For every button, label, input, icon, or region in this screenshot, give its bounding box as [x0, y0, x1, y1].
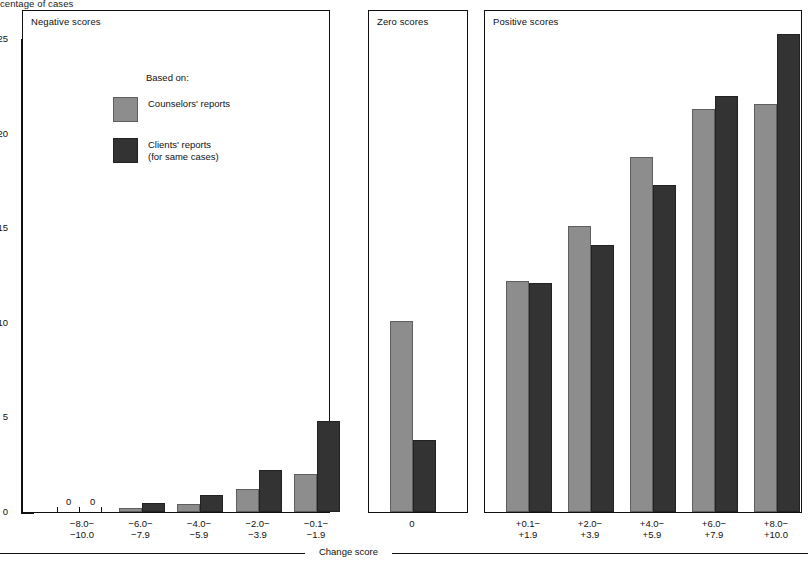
x-tick-label-line: −0.1− [282, 518, 350, 529]
bar-client-positive-3 [715, 96, 738, 512]
bar-group [59, 9, 107, 512]
bar-counselor-positive-2 [630, 157, 653, 513]
bar-group [389, 9, 437, 512]
x-tick-label-positive-0: +0.1−+1.9 [494, 518, 562, 540]
bar-client-positive-1 [591, 245, 614, 512]
bar-client-negative-3 [259, 470, 282, 512]
x-tick-label-line: +3.9 [556, 529, 624, 540]
bar-counselor-positive-0 [506, 281, 529, 512]
x-tick-label-line: +2.0− [556, 518, 624, 529]
bar-counselor-positive-3 [692, 109, 715, 512]
chart-root: centage of cases 0510152025 Negative sco… [0, 0, 808, 565]
x-tick-label-zero-0: 0 [378, 518, 446, 529]
bar-client-negative-4 [317, 421, 340, 512]
x-tick-label-line: −1.9 [282, 529, 350, 540]
bar-counselor-negative-1 [119, 508, 142, 512]
legend-item-counselors: Counselors' reports [113, 97, 230, 122]
legend-label-sub: (for same cases) [148, 151, 219, 163]
bar-client-positive-4 [777, 34, 800, 512]
plot-area-positive [485, 11, 801, 512]
y-tick-10: 10 [0, 324, 22, 325]
bar-group [567, 9, 615, 512]
legend-label-counselors: Counselors' reports [148, 97, 230, 110]
y-tick-label: 0 [3, 506, 8, 517]
zero-value-annotation: 0 [66, 496, 71, 507]
x-tick-label-line: +5.9 [618, 529, 686, 540]
y-tick-line [22, 513, 34, 514]
legend-label-line: Clients' reports [148, 139, 219, 151]
bar-counselor-positive-1 [568, 226, 591, 512]
bar-client-positive-0 [529, 283, 552, 512]
y-tick-0: 0 [0, 513, 22, 514]
bar-counselor-negative-4 [294, 474, 317, 512]
y-tick-label: 20 [0, 128, 8, 139]
x-tick-label-line: +0.1− [494, 518, 562, 529]
x-tick-label-line: +10.0 [742, 529, 808, 540]
x-axis-caption: Change score [0, 546, 808, 560]
caption-rule-left [0, 553, 305, 554]
panel-zero-scores: Zero scores [368, 10, 468, 513]
bar-client-negative-1 [142, 503, 165, 512]
bar-counselor-negative-3 [236, 489, 259, 512]
x-axis-caption-text: Change score [305, 546, 392, 557]
plot-area-zero [369, 11, 467, 512]
x-tick-label-line: 0 [378, 518, 446, 529]
legend: Based on:Counselors' reportsClients' rep… [113, 72, 230, 179]
x-tick-mark [57, 507, 58, 513]
x-tick-label-line: +1.9 [494, 529, 562, 540]
bar-group [753, 9, 801, 512]
bar-group [629, 9, 677, 512]
x-tick-label-negative-4: −0.1−−1.9 [282, 518, 350, 540]
y-tick-20: 20 [0, 135, 22, 136]
legend-label-clients: Clients' reports(for same cases) [148, 138, 219, 163]
x-tick-label-line: +4.0− [618, 518, 686, 529]
legend-swatch-clients [113, 138, 138, 163]
y-tick-label: 10 [0, 317, 8, 328]
x-tick-mark [101, 507, 102, 513]
legend-swatch-counselors [113, 97, 138, 122]
bar-counselor-zero-0 [390, 321, 413, 512]
bar-client-negative-2 [200, 495, 223, 512]
legend-intro: Based on: [146, 72, 230, 83]
x-tick-label-positive-2: +4.0−+5.9 [618, 518, 686, 540]
bar-counselor-negative-2 [177, 504, 200, 512]
bar-client-zero-0 [413, 440, 436, 512]
legend-label-line: Counselors' reports [148, 98, 230, 110]
y-tick-label: 15 [0, 222, 8, 233]
x-tick-mark [79, 507, 80, 513]
bar-counselor-positive-4 [754, 104, 777, 512]
legend-item-clients: Clients' reports(for same cases) [113, 138, 230, 163]
bar-group [505, 9, 553, 512]
bar-group [293, 9, 341, 512]
x-tick-label-line: +7.9 [680, 529, 748, 540]
bar-group [235, 9, 283, 512]
x-tick-label-positive-3: +6.0−+7.9 [680, 518, 748, 540]
y-axis: 0510152025 [0, 0, 22, 565]
x-tick-label-positive-1: +2.0−+3.9 [556, 518, 624, 540]
y-tick-label: 5 [3, 411, 8, 422]
zero-value-annotation: 0 [90, 496, 95, 507]
bar-client-positive-2 [653, 185, 676, 512]
y-tick-label: 25 [0, 33, 8, 44]
x-tick-label-line: +8.0− [742, 518, 808, 529]
panel-positive-scores: Positive scores [484, 10, 802, 513]
bar-group [691, 9, 739, 512]
caption-rule-right [392, 553, 808, 554]
y-tick-5: 5 [0, 418, 22, 419]
x-tick-label-positive-4: +8.0−+10.0 [742, 518, 808, 540]
y-tick-25: 25 [0, 40, 22, 41]
y-tick-15: 15 [0, 229, 22, 230]
x-tick-label-line: +6.0− [680, 518, 748, 529]
